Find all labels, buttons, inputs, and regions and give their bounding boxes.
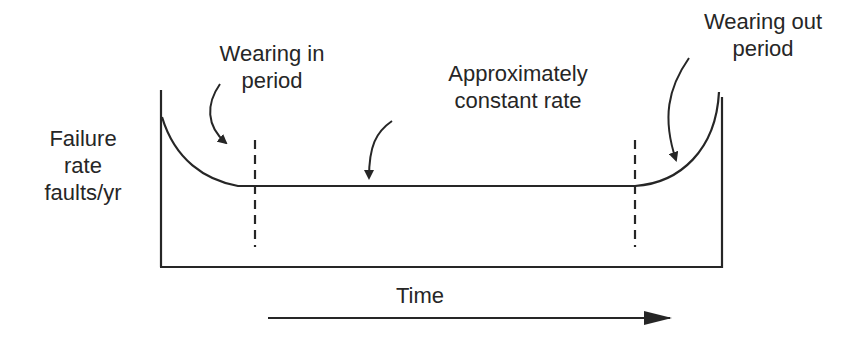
axes-frame [160, 90, 723, 268]
wearing-in-label-line2: period [202, 67, 342, 94]
wearing-out-arrow-icon [668, 58, 689, 160]
wearing-out-label-line2: period [683, 35, 843, 62]
y-axis-label-line3: faults/yr [28, 179, 138, 206]
constant-rate-arrow-icon [369, 121, 392, 178]
wearing-out-label-line1: Wearing out [683, 8, 843, 35]
wearing-in-label: Wearing in period [202, 40, 342, 94]
x-axis-label: Time [380, 282, 460, 309]
constant-rate-label-line2: constant rate [418, 87, 618, 114]
y-axis-label-line2: rate [28, 152, 138, 179]
wearing-in-label-line1: Wearing in [202, 40, 342, 67]
wearing-out-label: Wearing out period [683, 8, 843, 62]
y-axis-label: Failure rate faults/yr [28, 125, 138, 206]
constant-rate-label: Approximately constant rate [418, 60, 618, 114]
constant-rate-label-line1: Approximately [418, 60, 618, 87]
y-axis-label-line1: Failure [28, 125, 138, 152]
